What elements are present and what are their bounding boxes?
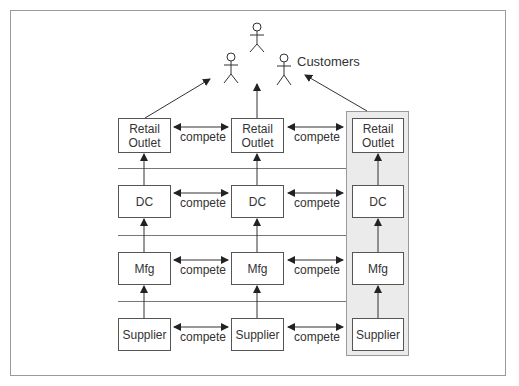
compete-label: compete <box>294 130 340 144</box>
customer-figures <box>224 23 291 85</box>
compete-label: compete <box>294 330 340 344</box>
compete-label: compete <box>294 263 340 277</box>
retail-outlet-box-1: Retail Outlet <box>118 118 171 153</box>
mfg-box-1: Mfg <box>118 252 171 285</box>
compete-label: compete <box>180 330 226 344</box>
retail-label-line1: Retail <box>129 122 160 136</box>
retail-label-line1: Retail <box>242 122 273 136</box>
dc-box-2: DC <box>231 185 284 218</box>
dc-box-1: DC <box>118 185 171 218</box>
compete-label: compete <box>294 196 340 210</box>
retail-label-line1: Retail <box>363 122 394 136</box>
mfg-box-2: Mfg <box>231 252 284 285</box>
supplier-box-2: Supplier <box>231 318 284 351</box>
supplier-box-3: Supplier <box>352 318 404 351</box>
customers-label: Customers <box>297 54 360 69</box>
customer-figure-icon <box>224 53 238 83</box>
customer-figure-icon <box>250 23 264 52</box>
compete-label: compete <box>180 263 226 277</box>
retail-outlet-box-3: Retail Outlet <box>352 118 404 153</box>
compete-label: compete <box>180 196 226 210</box>
retail-label-line2: Outlet <box>362 136 394 150</box>
mfg-box-3: Mfg <box>352 252 404 285</box>
customer-figure-icon <box>277 54 291 85</box>
retail-label-line2: Outlet <box>128 136 160 150</box>
retail-outlet-box-2: Retail Outlet <box>231 118 284 153</box>
supplier-box-1: Supplier <box>118 318 171 351</box>
compete-label: compete <box>180 130 226 144</box>
retail-label-line2: Outlet <box>241 136 273 150</box>
dc-box-3: DC <box>352 185 404 218</box>
